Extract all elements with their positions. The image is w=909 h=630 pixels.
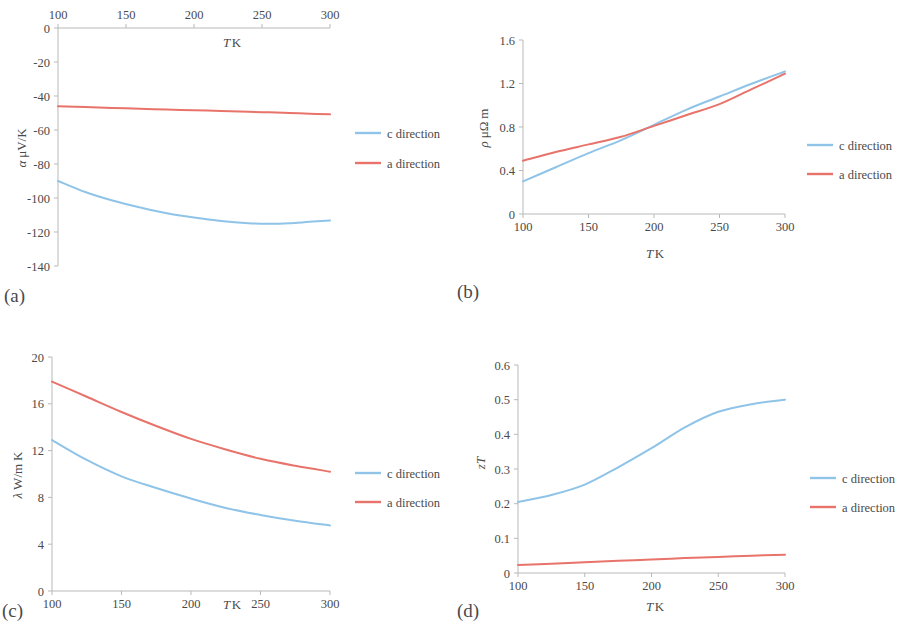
x-tick-label: 150 bbox=[579, 220, 598, 234]
y-axis-title: zT bbox=[473, 456, 488, 470]
chart-panel-a: 0-20-40-60-80-100-120-140100150200250300… bbox=[0, 0, 454, 315]
chart-panel-b: 00.40.81.21.6100150200250300TKρμΩmc dire… bbox=[455, 0, 909, 315]
series-line-a-direction bbox=[58, 106, 330, 114]
panel-tag: (d) bbox=[457, 600, 479, 622]
y-tick-label: 12 bbox=[32, 444, 45, 458]
y-tick-label: 1.2 bbox=[499, 77, 515, 91]
y-tick-label: 4 bbox=[38, 538, 45, 552]
x-tick-label: 200 bbox=[645, 220, 664, 234]
x-tick-label: 150 bbox=[117, 8, 136, 22]
y-axis-title: αμV/K bbox=[14, 128, 29, 168]
x-tick-label: 200 bbox=[642, 579, 661, 593]
x-tick-label: 250 bbox=[709, 579, 728, 593]
panel-tag: (c) bbox=[2, 600, 23, 622]
x-tick-label: 250 bbox=[253, 8, 272, 22]
chart-panel-c: 048121620100150200250300TKλW/mKc directi… bbox=[0, 315, 454, 630]
panel-tag: (a) bbox=[4, 285, 25, 307]
x-tick-label: 300 bbox=[321, 597, 340, 611]
x-tick-label: 150 bbox=[575, 579, 594, 593]
legend-label-a-direction: a direction bbox=[839, 168, 893, 182]
chart-svg: 0-20-40-60-80-100-120-140100150200250300… bbox=[0, 0, 454, 315]
y-tick-label: 0.1 bbox=[494, 532, 510, 546]
y-tick-label: 0.4 bbox=[494, 428, 510, 442]
y-tick-label: -140 bbox=[27, 260, 50, 274]
y-tick-label: -40 bbox=[33, 90, 50, 104]
x-axis-title: TK bbox=[223, 597, 242, 612]
y-tick-label: -60 bbox=[33, 124, 50, 138]
x-tick-label: 300 bbox=[776, 579, 795, 593]
y-tick-label: 0.6 bbox=[494, 359, 510, 373]
y-tick-label: 0.3 bbox=[494, 463, 510, 477]
legend-label-a-direction: a direction bbox=[387, 496, 441, 510]
y-tick-label: 0 bbox=[44, 22, 50, 36]
x-tick-label: 200 bbox=[182, 597, 201, 611]
chart-svg: 00.40.81.21.6100150200250300TKρμΩmc dire… bbox=[455, 0, 909, 315]
y-tick-label: -120 bbox=[27, 226, 50, 240]
x-tick-label: 150 bbox=[112, 597, 131, 611]
legend-label-c-direction: c direction bbox=[387, 127, 441, 141]
x-tick-label: 100 bbox=[509, 579, 528, 593]
x-tick-label: 300 bbox=[776, 220, 795, 234]
series-line-c-direction bbox=[58, 181, 330, 224]
y-tick-label: 0.5 bbox=[494, 393, 510, 407]
y-axis-title: λW/mK bbox=[10, 451, 25, 500]
chart-svg: 048121620100150200250300TKλW/mKc directi… bbox=[0, 315, 454, 630]
x-axis-title: TK bbox=[223, 35, 242, 50]
series-line-c-direction bbox=[518, 400, 785, 502]
x-tick-label: 100 bbox=[514, 220, 533, 234]
chart-panel-d: 00.10.20.30.40.50.6100150200250300TKzTc … bbox=[455, 315, 909, 630]
x-tick-label: 300 bbox=[321, 8, 340, 22]
x-axis-title: TK bbox=[646, 599, 665, 614]
series-line-a-direction bbox=[52, 382, 330, 472]
x-axis-title: TK bbox=[646, 246, 665, 261]
y-tick-label: -20 bbox=[33, 56, 50, 70]
y-tick-label: -100 bbox=[27, 192, 50, 206]
legend-label-c-direction: c direction bbox=[842, 472, 896, 486]
x-tick-label: 100 bbox=[49, 8, 68, 22]
x-tick-label: 250 bbox=[710, 220, 729, 234]
y-tick-label: 1.6 bbox=[499, 34, 515, 48]
y-tick-label: 0.8 bbox=[499, 121, 515, 135]
x-tick-label: 100 bbox=[43, 597, 62, 611]
legend-label-a-direction: a direction bbox=[387, 157, 441, 171]
series-line-a-direction bbox=[518, 555, 785, 565]
x-tick-label: 200 bbox=[185, 8, 204, 22]
y-tick-label: 16 bbox=[32, 397, 45, 411]
y-tick-label: 0.2 bbox=[494, 497, 510, 511]
y-tick-label: 0.4 bbox=[499, 164, 515, 178]
y-tick-label: -80 bbox=[33, 158, 50, 172]
chart-svg: 00.10.20.30.40.50.6100150200250300TKzTc … bbox=[455, 315, 909, 630]
legend-label-c-direction: c direction bbox=[839, 139, 893, 153]
legend-label-a-direction: a direction bbox=[842, 501, 896, 515]
x-tick-label: 250 bbox=[251, 597, 270, 611]
y-tick-label: 20 bbox=[32, 351, 45, 365]
y-axis-title: ρμΩm bbox=[476, 108, 491, 148]
panel-tag: (b) bbox=[457, 281, 479, 303]
series-line-c-direction bbox=[52, 440, 330, 525]
legend-label-c-direction: c direction bbox=[387, 467, 441, 481]
y-tick-label: 8 bbox=[38, 491, 44, 505]
